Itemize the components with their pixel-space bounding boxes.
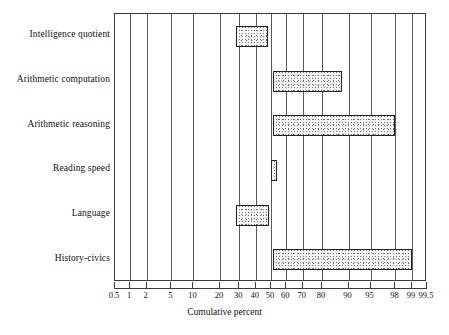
- x-tick-label-40: 40: [250, 290, 259, 300]
- gridline-40: [256, 14, 257, 280]
- bar: [273, 115, 396, 136]
- gridline-20: [220, 14, 221, 280]
- x-axis-baseline: [114, 288, 426, 289]
- x-tick-label-70: 70: [298, 290, 307, 300]
- gridline-30: [239, 14, 240, 280]
- x-tick-label-99.5: 99.5: [419, 290, 434, 300]
- bar: [273, 249, 412, 270]
- gridline-99: [412, 14, 413, 280]
- x-tick-label-50: 50: [266, 290, 275, 300]
- x-tick-label-20: 20: [215, 290, 224, 300]
- category-label: Intelligence quotient: [30, 29, 110, 39]
- x-tick-label-0.5: 0.5: [109, 290, 120, 300]
- gridline-5: [171, 14, 172, 280]
- bar: [236, 205, 270, 226]
- x-tick-label-1: 1: [127, 290, 131, 300]
- x-tick-label-10: 10: [188, 290, 197, 300]
- category-label: Arithmetic reasoning: [28, 119, 110, 129]
- gridline-10: [193, 14, 194, 280]
- chart-root: Intelligence quotientArithmetic computat…: [0, 0, 449, 335]
- x-tick-label-2: 2: [143, 290, 147, 300]
- gridline-50: [271, 14, 272, 280]
- category-label: Reading speed: [53, 163, 110, 173]
- x-tick-label-99: 99: [407, 290, 416, 300]
- category-label: Language: [72, 208, 110, 218]
- x-tick-99.5: [426, 282, 427, 289]
- gridline-2: [147, 14, 148, 280]
- gridline-95: [371, 14, 372, 280]
- bar: [271, 160, 277, 181]
- gridline-60: [286, 14, 287, 280]
- x-axis-title: Cumulative percent: [0, 307, 449, 317]
- x-tick-label-90: 90: [343, 290, 352, 300]
- gridline-98: [395, 14, 396, 280]
- bar: [273, 71, 343, 92]
- gridline-1: [130, 14, 131, 280]
- x-tick-label-80: 80: [317, 290, 326, 300]
- x-tick-label-98: 98: [390, 290, 399, 300]
- x-tick-label-5: 5: [168, 290, 172, 300]
- plot-area: [114, 13, 426, 281]
- category-label: Arithmetic computation: [17, 74, 110, 84]
- bar: [236, 26, 268, 47]
- gridline-90: [349, 14, 350, 280]
- category-axis-labels: Intelligence quotientArithmetic computat…: [0, 0, 110, 335]
- x-tick-label-95: 95: [365, 290, 374, 300]
- category-label: History-civics: [55, 253, 110, 263]
- gridline-70: [303, 14, 304, 280]
- x-tick-label-60: 60: [281, 290, 290, 300]
- gridline-80: [322, 14, 323, 280]
- x-tick-label-30: 30: [234, 290, 243, 300]
